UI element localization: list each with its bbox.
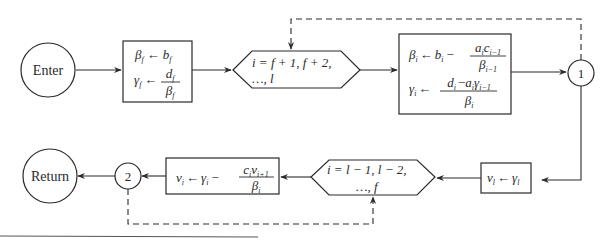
init-line2-num: df — [166, 66, 177, 83]
loop-forward-line1: i = f + 1, f + 2, — [252, 55, 331, 70]
init-line2-lhs: γf← — [134, 72, 157, 89]
loop-backward-line1: i = l − 1, l − 2, — [327, 162, 406, 177]
enter-label: Enter — [33, 63, 64, 78]
backward-den: βi — [251, 178, 261, 195]
forward-box: βi←bi− aici−1 βi−1 γi← di−aiγi−1 βi — [399, 34, 511, 114]
back-init-box: vl←γl — [481, 163, 531, 193]
init-line2-den: βf — [165, 83, 176, 100]
forward-line2-den: βi — [464, 93, 474, 110]
edge-connector-1-to-back-init — [542, 86, 581, 180]
forward-box-rect — [399, 34, 511, 114]
forward-line2-num: di−aiγi−1 — [447, 75, 491, 92]
return-node: Return — [23, 149, 77, 203]
loop-forward-line2: …, l — [252, 71, 274, 86]
loop-forward-node: i = f + 1, f + 2, …, l — [233, 51, 360, 88]
forward-line1-num: aici−1 — [475, 40, 501, 57]
flowchart-canvas: Enter βf←bf γf← df βf i = f + 1, f + 2, … — [0, 0, 604, 243]
connector-1-label: 1 — [578, 66, 585, 81]
init-box: βf←bf γf← df βf — [123, 41, 192, 102]
forward-line2-lhs: γi← — [409, 81, 431, 98]
init-line1: βf←bf — [134, 47, 173, 64]
backward-box: vi←γi− civi+1 βi — [166, 158, 279, 195]
enter-node: Enter — [21, 43, 75, 97]
footnote-rule — [0, 236, 258, 237]
forward-line1-den: βi−1 — [478, 57, 497, 74]
loop-backward-node: i = l − 1, l − 2, …, f — [311, 160, 435, 195]
connector-2: 2 — [115, 163, 141, 189]
backward-lhs: vi←γi− — [176, 170, 219, 187]
loop-backward-line2: …, f — [356, 179, 380, 194]
forward-line1-lhs: βi←bi− — [408, 47, 454, 64]
return-label: Return — [31, 169, 69, 184]
backward-num: civi+1 — [243, 162, 268, 179]
connector-2-label: 2 — [125, 169, 132, 184]
connector-1: 1 — [568, 60, 594, 86]
back-init-expr: vl←γl — [487, 170, 520, 187]
